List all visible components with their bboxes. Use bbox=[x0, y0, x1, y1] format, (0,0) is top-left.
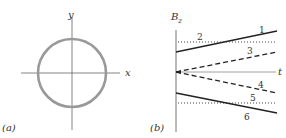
curve-3 bbox=[176, 52, 277, 72]
curve-label-2: 2 bbox=[197, 32, 203, 42]
t-axis-label: t bbox=[278, 66, 283, 77]
bz-axis-label: Bz bbox=[170, 11, 182, 25]
panel-b: 1 2 3 4 5 6 t Bz (b) bbox=[150, 11, 283, 133]
y-axis-label: y bbox=[67, 9, 74, 20]
curve-label-5: 5 bbox=[250, 93, 256, 103]
panel-a: x y (a) bbox=[2, 9, 131, 133]
curve-label-4: 4 bbox=[258, 80, 264, 90]
curve-label-3: 3 bbox=[247, 46, 253, 56]
figure: x y (a) 1 2 3 4 5 6 t Bz (b) bbox=[0, 0, 286, 138]
panel-a-label: (a) bbox=[2, 122, 16, 133]
panel-b-label: (b) bbox=[150, 122, 164, 133]
curve-label-6: 6 bbox=[244, 112, 250, 122]
x-axis-label: x bbox=[125, 67, 131, 78]
curve-6 bbox=[176, 93, 277, 113]
curve-label-1: 1 bbox=[259, 25, 265, 35]
